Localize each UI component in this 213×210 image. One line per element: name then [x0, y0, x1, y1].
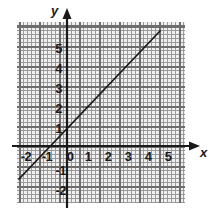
x-tick-label-3: 3 [125, 150, 132, 163]
x-tick-label--2: -2 [21, 150, 32, 163]
x-tick-label-5: 5 [165, 150, 172, 163]
x-tick-label-4: 4 [145, 150, 152, 163]
x-tick-label--1: -1 [42, 150, 53, 163]
y-tick-label-5: 5 [48, 42, 62, 55]
y-tick-label-2: 2 [48, 102, 62, 115]
y-tick-label-4: 4 [48, 62, 62, 75]
y-tick-label-1: 1 [48, 122, 62, 135]
x-axis-label: x [200, 146, 207, 159]
origin-label: 0 [67, 150, 74, 163]
x-tick-label-1: 1 [85, 150, 92, 163]
x-tick-label-2: 2 [105, 150, 112, 163]
y-tick-label--2: -2 [46, 184, 66, 197]
y-axis-label: y [51, 4, 58, 17]
y-axis-arrow-icon [63, 8, 72, 19]
y-tick-label-3: 3 [48, 82, 62, 95]
x-axis-arrow-icon [189, 142, 200, 151]
axes-and-plot-overlay [0, 0, 213, 210]
y-axis [63, 8, 72, 208]
graph-figure: -2 -1 1 2 3 4 5 0 5 4 3 2 1 -1 -2 x y [0, 0, 213, 210]
y-tick-label--1: -1 [46, 164, 66, 177]
